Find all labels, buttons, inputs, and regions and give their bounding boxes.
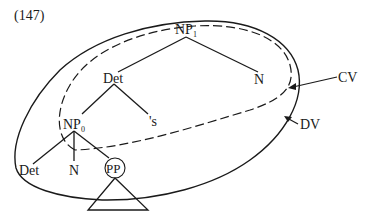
cv-region-outline [59,26,291,150]
edge-np1-det [118,37,186,72]
node-np0: NP0 [63,117,85,134]
dv-region-outline [15,21,299,200]
dv-label: DV [300,117,320,132]
node-possessive: 's [149,114,157,129]
edge-det-poss [114,84,148,114]
dv-arrowhead-icon [284,116,292,122]
node-n-top: N [254,72,264,87]
syntax-tree-figure: (147) NP1 Det N NP0 's Det N PP [0,0,378,224]
edge-np0-det [33,131,74,164]
edge-np0-pp [74,131,109,158]
example-number: (147) [14,8,45,24]
node-det-top: Det [103,71,123,86]
node-det-bottom: Det [19,163,39,178]
pp-subtree-triangle [88,178,148,210]
edge-det-np0 [82,84,114,114]
cv-label: CV [338,70,357,85]
node-n-bottom: N [69,163,79,178]
edge-np1-n [186,37,258,72]
node-pp: PP [106,161,120,176]
node-np1: NP1 [175,22,197,39]
